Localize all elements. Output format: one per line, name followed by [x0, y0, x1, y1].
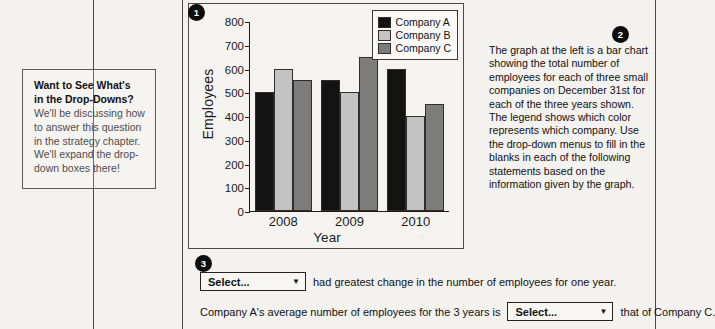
y-tick-label: 100 — [210, 182, 244, 194]
legend-label: Company C — [396, 42, 451, 54]
description-text: The graph at the left is a bar chart sho… — [489, 44, 649, 191]
legend-item: Company C — [378, 42, 451, 54]
bar-company-c-2010 — [425, 104, 444, 211]
y-tick-label: 500 — [210, 87, 244, 99]
vertical-rule-right — [655, 0, 656, 329]
question-1-text: had greatest change in the number of emp… — [313, 276, 616, 288]
bar-company-a-2010 — [387, 69, 406, 212]
bar-company-a-2008 — [255, 92, 274, 211]
chart-legend: Company ACompany BCompany C — [372, 10, 458, 60]
y-tick-label: 600 — [210, 64, 244, 76]
y-axis-ticks: 8007006005004003002001000 — [210, 4, 244, 250]
step-badge-3: 3 — [195, 255, 212, 272]
chart-panel: Employees 8007006005004003002001000 2008… — [188, 3, 464, 249]
callout-box: Want to See What's in the Drop-Downs? We… — [22, 69, 156, 189]
callout-title-line1: Want to See What's — [34, 79, 131, 91]
y-tick-label: 700 — [210, 40, 244, 52]
bar-company-b-2010 — [406, 116, 425, 211]
y-tick-label: 400 — [210, 111, 244, 123]
question-line-2: Company A's average number of employees … — [200, 302, 715, 321]
dropdown-comparison-select-value: Select... — [515, 306, 557, 318]
y-tick-label: 200 — [210, 159, 244, 171]
question-panel: Select... ▼ had greatest change in the n… — [188, 252, 655, 329]
bar-company-b-2008 — [274, 69, 293, 212]
y-tick-label: 800 — [210, 16, 244, 28]
legend-label: Company B — [396, 29, 451, 41]
chevron-down-icon: ▼ — [292, 278, 300, 286]
bar-chart: Employees 8007006005004003002001000 2008… — [189, 4, 465, 250]
callout-title-line2: in the Drop-Downs? — [34, 93, 134, 105]
question-line-1: Select... ▼ had greatest change in the n… — [200, 272, 616, 291]
callout-title: Want to See What's in the Drop-Downs? — [34, 79, 146, 106]
x-tick-label-2009: 2009 — [335, 214, 364, 229]
y-tick-mark — [245, 212, 250, 213]
dropdown-company-select-value: Select... — [208, 276, 250, 288]
x-axis-line — [249, 211, 449, 212]
dropdown-company-select[interactable]: Select... ▼ — [200, 272, 306, 291]
legend-swatch-icon — [378, 43, 391, 54]
y-tick-label: 300 — [210, 135, 244, 147]
x-axis-tick-labels: 200820092010 — [250, 214, 449, 229]
step-badge-1: 1 — [188, 4, 205, 21]
y-tick-label: 0 — [210, 206, 244, 218]
question-2-prefix: Company A's average number of employees … — [200, 306, 500, 318]
chevron-down-icon: ▼ — [600, 308, 608, 316]
bar-company-b-2009 — [340, 92, 359, 211]
bar-company-c-2008 — [293, 80, 312, 211]
vertical-rule-middle — [182, 0, 183, 329]
bar-group-2009 — [321, 22, 378, 211]
bar-group-2008 — [255, 22, 312, 211]
x-tick-label-2010: 2010 — [401, 214, 430, 229]
bar-company-c-2009 — [359, 57, 378, 211]
legend-swatch-icon — [378, 17, 391, 28]
question-2-suffix: that of Company C. — [620, 306, 715, 318]
x-tick-label-2008: 2008 — [269, 214, 298, 229]
step-badge-2: 2 — [612, 26, 629, 43]
legend-label: Company A — [396, 16, 450, 28]
callout-body: We'll be discussing how to answer this q… — [34, 107, 146, 176]
bar-company-a-2009 — [321, 80, 340, 211]
legend-swatch-icon — [378, 30, 391, 41]
legend-item: Company A — [378, 16, 451, 28]
legend-item: Company B — [378, 29, 451, 41]
x-axis-label: Year — [189, 230, 465, 245]
dropdown-comparison-select[interactable]: Select... ▼ — [507, 302, 613, 321]
